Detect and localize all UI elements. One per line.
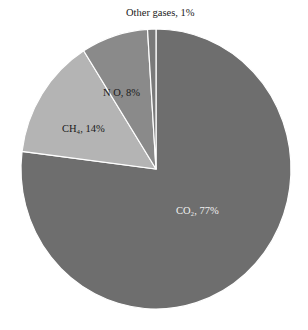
label-ch4: CH₄, 14% bbox=[62, 123, 105, 134]
label-co2: CO₂, 77% bbox=[176, 205, 219, 216]
pie-slices bbox=[21, 29, 291, 309]
label-other-gases: Other gases, 1% bbox=[126, 7, 195, 18]
pie-chart: Other gases, 1% N O, 8% CH₄, 14% CO₂, 77… bbox=[0, 0, 308, 330]
label-n2o: N O, 8% bbox=[103, 87, 140, 98]
